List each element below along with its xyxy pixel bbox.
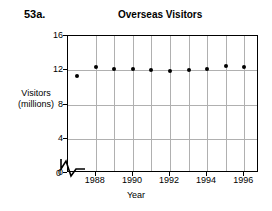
y-axis-tick-label: 4	[41, 133, 63, 143]
x-axis-tick-label: 1994	[196, 175, 216, 185]
gridline-vertical	[151, 36, 152, 171]
gridline-vertical	[96, 36, 97, 171]
chart-title: Overseas Visitors	[118, 9, 202, 20]
y-axis-tick-mark	[63, 69, 67, 70]
data-point	[131, 67, 135, 71]
data-point	[205, 67, 209, 71]
x-axis-tick-mark	[243, 172, 244, 176]
axis-break-icon	[60, 158, 86, 180]
x-axis-tick-mark	[206, 172, 207, 176]
gridline-vertical	[114, 36, 115, 171]
gridline-vertical	[244, 36, 245, 171]
data-point	[112, 67, 116, 71]
y-axis-tick-label: 12	[41, 64, 63, 74]
data-point	[242, 65, 246, 69]
data-point	[168, 69, 172, 73]
x-axis-tick-label: 1992	[159, 175, 179, 185]
gridline-vertical	[207, 36, 208, 171]
problem-number-label: 53a.	[24, 8, 45, 20]
y-axis-label-line-1: Visitors	[6, 88, 66, 99]
data-point	[224, 64, 228, 68]
x-axis-tick-mark	[95, 172, 96, 176]
y-axis-tick-mark	[63, 138, 67, 139]
y-axis-label: Visitors (millions)	[6, 88, 66, 110]
gridline-vertical	[133, 36, 134, 171]
data-point	[187, 68, 191, 72]
y-axis-tick-mark	[63, 35, 67, 36]
chart-figure: 53a. Overseas Visitors 0481216 198819901…	[0, 0, 272, 211]
y-axis-tick-label: 16	[41, 30, 63, 40]
x-axis-tick-label: 1988	[85, 175, 105, 185]
gridline-vertical	[170, 36, 171, 171]
data-point	[149, 68, 153, 72]
data-point	[94, 65, 98, 69]
gridline-vertical	[189, 36, 190, 171]
data-point	[75, 74, 79, 78]
gridline-vertical	[226, 36, 227, 171]
x-axis-tick-label: 1996	[233, 175, 253, 185]
x-axis-tick-mark	[132, 172, 133, 176]
x-axis-tick-mark	[169, 172, 170, 176]
x-axis-tick-label: 1990	[122, 175, 142, 185]
x-axis-label: Year	[0, 190, 272, 200]
y-axis-label-line-2: (millions)	[6, 99, 66, 110]
plot-area	[67, 35, 258, 172]
